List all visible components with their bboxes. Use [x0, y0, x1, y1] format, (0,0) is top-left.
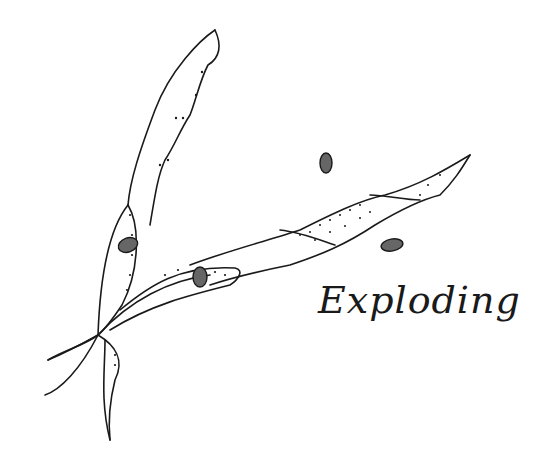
seed-pod-illustration: [0, 0, 543, 474]
seed-flying: [320, 153, 332, 173]
stem-base: [45, 335, 119, 440]
caption-text: Exploding: [318, 278, 521, 322]
twisted-pod: [190, 155, 470, 285]
seed-flying: [380, 237, 404, 253]
lower-right-pod: [98, 267, 240, 335]
upper-pod: [128, 30, 219, 225]
seed: [193, 267, 207, 287]
